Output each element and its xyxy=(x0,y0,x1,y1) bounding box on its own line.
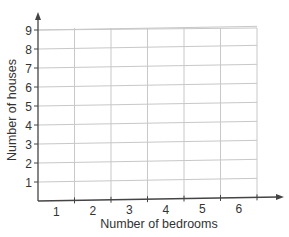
x-tick-label: 1 xyxy=(53,205,60,219)
y-axis-title: Number of houses xyxy=(5,59,19,161)
x-tick-label: 2 xyxy=(89,204,96,218)
y-tick-label: 8 xyxy=(25,43,32,57)
x-tick-label: 3 xyxy=(126,203,133,217)
y-axis-arrow-icon xyxy=(35,12,41,20)
axes xyxy=(35,12,284,201)
y-tick-label: 4 xyxy=(25,119,32,133)
x-axis-arrow-icon xyxy=(276,194,284,200)
y-tick-label: 5 xyxy=(25,100,32,114)
bar-chart-blank-grid: 123456789 123456 Number of bedrooms Numb… xyxy=(0,0,289,237)
y-tick-label: 6 xyxy=(25,81,32,95)
grid-lines xyxy=(38,26,257,200)
tick-marks xyxy=(34,30,257,203)
y-tick-label: 7 xyxy=(25,62,32,76)
y-tick-label: 3 xyxy=(25,138,32,152)
y-tick-labels: 123456789 xyxy=(25,24,32,190)
y-tick-label: 2 xyxy=(25,157,32,171)
y-tick-label: 1 xyxy=(25,176,32,190)
x-tick-label: 5 xyxy=(199,202,206,216)
x-tick-label: 6 xyxy=(235,202,242,216)
x-tick-label: 4 xyxy=(162,203,169,217)
y-tick-label: 9 xyxy=(25,24,32,38)
x-axis-title: Number of bedrooms xyxy=(100,217,217,231)
